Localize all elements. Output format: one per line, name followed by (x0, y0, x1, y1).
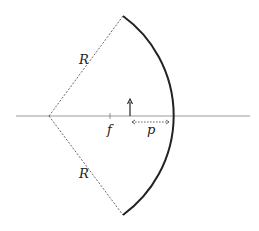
object-distance-label: p (147, 122, 156, 137)
focal-label: f (106, 122, 114, 137)
radius-label-lower: R (78, 166, 89, 181)
mirror-diagram: R R f p (0, 0, 259, 231)
radius-label-upper: R (78, 52, 89, 67)
